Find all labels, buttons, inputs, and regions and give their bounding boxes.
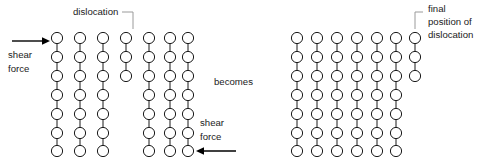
atom	[351, 127, 362, 138]
atom	[371, 89, 382, 100]
atom	[291, 51, 302, 62]
atom	[371, 145, 382, 156]
atom	[143, 51, 154, 62]
atom	[164, 32, 175, 43]
atom	[182, 108, 193, 119]
lattice-before-row	[51, 145, 193, 156]
atom	[182, 32, 193, 43]
atom	[311, 145, 322, 156]
shear-arrow-top	[12, 37, 50, 44]
atom	[74, 32, 85, 43]
atom	[164, 89, 175, 100]
atom	[351, 108, 362, 119]
atom	[390, 32, 401, 43]
atom-dislocation	[120, 32, 131, 43]
atom	[390, 145, 401, 156]
atom	[74, 89, 85, 100]
lattice-after-row	[291, 127, 401, 138]
atom	[291, 32, 302, 43]
atom-dislocation	[120, 51, 131, 62]
atom	[182, 127, 193, 138]
atom	[291, 127, 302, 138]
atom	[51, 32, 62, 43]
atom	[331, 127, 342, 138]
final-position-label-line3: dislocation	[428, 29, 473, 40]
atom	[164, 51, 175, 62]
dislocation-leader-line	[122, 12, 133, 29]
atom	[390, 89, 401, 100]
atom	[371, 127, 382, 138]
atom	[51, 51, 62, 62]
atom	[331, 89, 342, 100]
atom	[97, 70, 108, 81]
atom	[311, 127, 322, 138]
arrow-head-right	[42, 37, 50, 44]
figure-canvas: dislocation shear force shear force beco…	[0, 0, 489, 164]
atom	[51, 145, 62, 156]
atom	[51, 70, 62, 81]
shear-force-top-label-line1: shear	[8, 49, 33, 60]
lattice-before-row	[51, 108, 193, 119]
lattice-after-row	[291, 108, 401, 119]
atom	[311, 70, 322, 81]
dislocation-label: dislocation	[73, 6, 118, 17]
lattice-before	[51, 32, 193, 156]
shear-force-bottom-label-line2: force	[200, 131, 221, 142]
atom	[390, 51, 401, 62]
atom	[331, 51, 342, 62]
atom	[74, 51, 85, 62]
atom	[143, 127, 154, 138]
atom	[164, 127, 175, 138]
atom	[97, 51, 108, 62]
atom	[390, 70, 401, 81]
lattice-after-row	[291, 32, 420, 43]
atom-dislocation	[409, 51, 420, 62]
atom	[51, 108, 62, 119]
atom	[143, 108, 154, 119]
atom	[182, 89, 193, 100]
atom	[143, 89, 154, 100]
lattice-before-row	[51, 32, 193, 43]
lattice-after	[291, 32, 420, 156]
atom	[351, 70, 362, 81]
atom	[164, 108, 175, 119]
shear-force-top-label-line2: force	[8, 63, 29, 74]
lattice-before-row	[51, 51, 193, 62]
lattice-after-row	[291, 145, 401, 156]
atom-dislocation-tip	[409, 70, 420, 81]
atom	[182, 51, 193, 62]
atom	[182, 70, 193, 81]
atom	[182, 145, 193, 156]
atom	[291, 89, 302, 100]
atom	[390, 127, 401, 138]
atom	[311, 32, 322, 43]
atom	[371, 108, 382, 119]
lattice-before-row	[51, 70, 193, 81]
atom	[331, 108, 342, 119]
atom	[331, 70, 342, 81]
atom	[164, 70, 175, 81]
atom	[97, 145, 108, 156]
atom	[371, 32, 382, 43]
atom	[351, 89, 362, 100]
atom	[331, 32, 342, 43]
arrow-head-left	[196, 147, 204, 154]
dislocation-diagram: dislocation shear force shear force beco…	[0, 0, 489, 164]
becomes-label: becomes	[214, 76, 253, 87]
atom	[371, 51, 382, 62]
atom	[97, 127, 108, 138]
atom	[74, 70, 85, 81]
atom	[51, 127, 62, 138]
atom-dislocation-tip	[120, 70, 131, 81]
lattice-before-row	[51, 89, 193, 100]
atom	[97, 32, 108, 43]
atom	[311, 108, 322, 119]
atom-dislocation	[409, 32, 420, 43]
lattice-after-row	[291, 70, 420, 81]
lattice-before-row	[51, 127, 193, 138]
final-position-leader-line	[415, 12, 423, 29]
atom	[371, 70, 382, 81]
atom	[351, 32, 362, 43]
atom	[164, 145, 175, 156]
atom	[291, 145, 302, 156]
